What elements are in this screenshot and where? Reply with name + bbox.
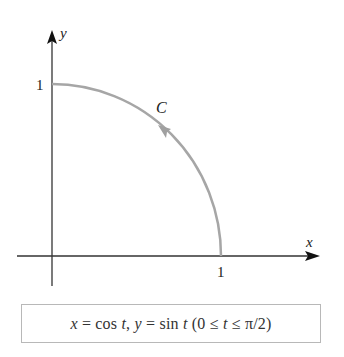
caption-eq1: = cos [78,315,122,332]
y-tick-label: 1 [36,77,44,93]
y-axis-label: y [58,25,67,41]
curve-c [52,84,221,256]
caption-x-var: x [70,315,77,332]
caption-range-open: (0 ≤ [188,315,223,332]
caption-y-var: y [135,315,142,332]
x-tick-label: 1 [217,264,225,280]
caption-sep: , [126,315,134,332]
parametric-equation-caption: x = cos t, y = sin t (0 ≤ t ≤ π/2) [21,304,321,343]
caption-text: x = cos t, y = sin t (0 ≤ t ≤ π/2) [70,315,271,333]
caption-eq2: = sin [142,315,183,332]
curve-label: C [156,99,167,116]
x-axis-label: x [305,234,313,250]
caption-range-close: ≤ π/2) [228,315,272,332]
